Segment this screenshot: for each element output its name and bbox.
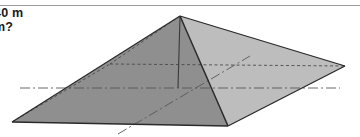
- pyramid-figure-screenshot: 40 m m?: [0, 0, 360, 137]
- measurement-label: 40 m m?: [0, 6, 64, 34]
- measurement-label-line-1: 40 m: [0, 6, 64, 20]
- measurement-label-line-2: m?: [0, 20, 64, 34]
